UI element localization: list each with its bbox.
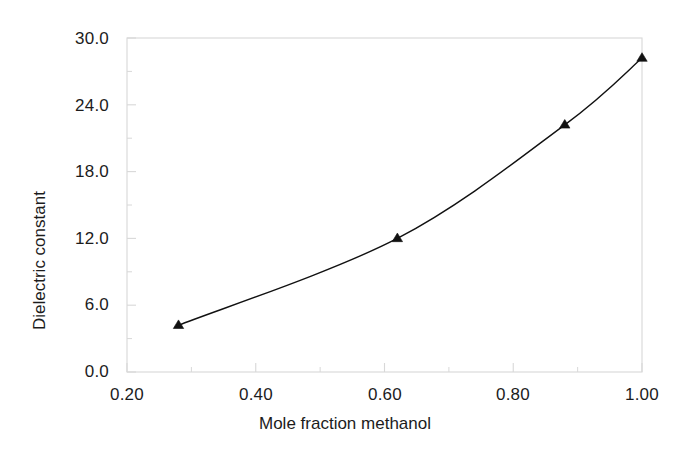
data-series-line: [179, 58, 643, 325]
chart-figure: 30.0 24.0 18.0 12.0 6.0 0.0 0.20 0.40 0.…: [0, 0, 690, 457]
xtick-label-0-60: 0.60: [345, 385, 425, 405]
ytick-label-30: 30.0: [20, 29, 109, 49]
y-axis-title: Dielectric constant: [30, 191, 50, 330]
data-point-marker: [560, 120, 570, 129]
ytick-label-24: 24.0: [20, 96, 109, 116]
xtick-label-1-00: 1.00: [602, 385, 682, 405]
ytick-label-18: 18.0: [20, 162, 109, 182]
data-point-marker: [392, 233, 402, 242]
data-point-marker: [637, 53, 647, 62]
xtick-label-0-80: 0.80: [473, 385, 553, 405]
plot-frame: [127, 38, 642, 372]
xtick-label-0-20: 0.20: [87, 385, 167, 405]
xtick-label-0-40: 0.40: [216, 385, 296, 405]
ytick-label-0: 0.0: [20, 362, 109, 382]
x-axis-title: Mole fraction methanol: [0, 414, 690, 434]
